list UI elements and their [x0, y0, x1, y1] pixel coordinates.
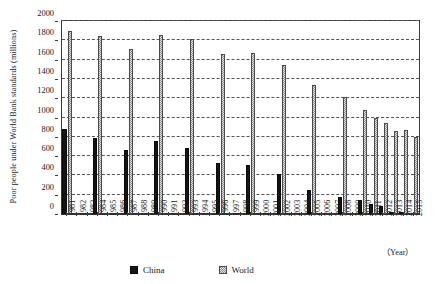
x-tick-mark-2013: [393, 212, 394, 216]
x-tick-mark-2000: [260, 212, 261, 216]
y-tick-mark-0: [55, 214, 58, 215]
y-tick-mark-600: [55, 156, 58, 157]
x-tick-mark-1990: [158, 212, 159, 216]
x-tick-mark-2009: [352, 212, 353, 216]
x-tick-mark-2010: [362, 212, 363, 216]
x-tick-mark-2002: [280, 212, 281, 216]
y-tick-mark-1400: [55, 79, 58, 80]
bar-world-2002: [282, 65, 286, 214]
x-tick-mark-1987: [127, 212, 128, 216]
y-tick-label-1800: 1800: [37, 29, 54, 37]
y-tick-label-600: 600: [41, 145, 54, 153]
y-tick-mark-800: [55, 137, 58, 138]
x-tick-mark-1998: [240, 212, 241, 216]
x-tick-mark-1996: [219, 212, 220, 216]
x-tick-mark-2014: [403, 212, 404, 216]
x-tick-mark-1991: [168, 212, 169, 216]
y-tick-mark-200: [55, 195, 58, 196]
y-tick-label-2000: 2000: [37, 10, 54, 18]
bar-china-1981: [62, 129, 66, 214]
bar-world-1984: [98, 36, 102, 214]
x-tick-mark-1997: [229, 212, 230, 216]
plot-area: [61, 20, 420, 215]
bar-world-1999: [251, 53, 255, 214]
x-tick-mark-1984: [97, 212, 98, 216]
x-tick-mark-1992: [178, 212, 179, 216]
chart-legend: ChinaWorld: [130, 262, 350, 278]
legend-swatch-china-icon: [130, 266, 138, 274]
y-tick-label-0: 0: [50, 203, 54, 211]
y-tick-label-1000: 1000: [37, 107, 54, 115]
bar-world-1990: [159, 35, 163, 214]
y-tick-mark-1200: [55, 98, 58, 99]
legend-item-world: World: [219, 266, 254, 275]
x-tick-mark-2006: [321, 212, 322, 216]
legend-swatch-world-icon: [219, 266, 227, 274]
x-tick-mark-2003: [291, 212, 292, 216]
x-tick-mark-1993: [189, 212, 190, 216]
x-tick-mark-2012: [382, 212, 383, 216]
x-tick-mark-2008: [342, 212, 343, 216]
x-tick-label-2015: 2015: [416, 200, 424, 216]
y-tick-mark-1800: [55, 40, 58, 41]
bar-world-1987: [129, 49, 133, 214]
y-tick-mark-1600: [55, 60, 58, 61]
y-tick-mark-400: [55, 175, 58, 176]
x-tick-mark-2011: [372, 212, 373, 216]
x-tick-mark-2015: [413, 212, 414, 216]
y-axis-title: Poor people under World Bank standards (…: [9, 12, 18, 222]
legend-item-china: China: [130, 266, 165, 275]
bar-world-2010: [363, 110, 367, 214]
x-axis-tick-labels: 1981198219831984198519861987198819891990…: [61, 216, 420, 256]
x-tick-mark-2001: [270, 212, 271, 216]
bar-world-2008: [343, 97, 347, 214]
bar-world-1993: [190, 39, 194, 214]
y-tick-mark-2000: [55, 21, 58, 22]
x-tick-mark-1989: [148, 212, 149, 216]
y-axis-tick-labels: 0200400600800100012001400160018002000: [20, 20, 58, 215]
y-tick-label-1600: 1600: [37, 49, 54, 57]
x-tick-mark-1981: [66, 212, 67, 216]
y-tick-mark-1000: [55, 118, 58, 119]
bar-world-1996: [221, 54, 225, 214]
x-tick-mark-1983: [87, 212, 88, 216]
legend-label-world: World: [232, 266, 254, 275]
x-tick-mark-1986: [117, 212, 118, 216]
bar-series-container: [62, 21, 419, 214]
y-tick-label-400: 400: [41, 164, 54, 172]
x-tick-mark-1999: [250, 212, 251, 216]
legend-label-china: China: [143, 266, 165, 275]
x-tick-mark-2007: [331, 212, 332, 216]
y-tick-label-200: 200: [41, 184, 54, 192]
y-tick-label-800: 800: [41, 126, 54, 134]
bar-chart: Poor people under World Bank standards (…: [0, 0, 443, 284]
bar-world-2005: [312, 85, 316, 214]
x-axis-title: （Year）: [382, 245, 413, 257]
x-tick-mark-1995: [209, 212, 210, 216]
y-tick-label-1400: 1400: [37, 68, 54, 76]
x-tick-mark-1985: [107, 212, 108, 216]
y-tick-label-1200: 1200: [37, 87, 54, 95]
x-tick-mark-1994: [199, 212, 200, 216]
x-tick-mark-1988: [138, 212, 139, 216]
x-tick-mark-1982: [76, 212, 77, 216]
x-tick-mark-2004: [301, 212, 302, 216]
x-tick-mark-2005: [311, 212, 312, 216]
bar-world-1981: [68, 31, 72, 214]
